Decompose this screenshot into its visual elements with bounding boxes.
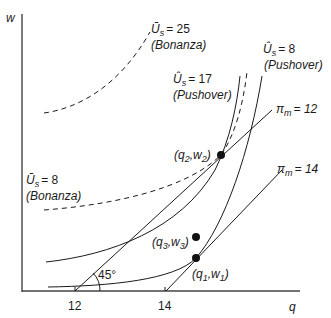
label-bonanza-25: Ūs= 25 (Bonanza) <box>151 22 206 52</box>
svg-text:Ūs= 25: Ūs= 25 <box>151 22 190 38</box>
point-q2-w2 <box>217 151 225 159</box>
profit-12-line <box>75 110 272 291</box>
label-profit-14: πm= 14 <box>277 162 319 178</box>
tick-label-12: 12 <box>68 299 82 313</box>
label-bonanza-8: Ūs= 8 (Bonanza) <box>26 173 81 203</box>
label-pushover-17: Ûs= 17 (Pushover) <box>173 71 232 102</box>
svg-text:Ūs= 8: Ūs= 8 <box>26 173 59 189</box>
angle-label: 45° <box>98 268 116 282</box>
svg-text:Ûs= 17: Ûs= 17 <box>173 71 212 88</box>
pushover-17-curve <box>46 76 240 262</box>
label-pushover-8: Ûs= 8 (Pushover) <box>263 41 323 72</box>
svg-text:(Pushover): (Pushover) <box>173 88 232 102</box>
svg-text:(Bonanza): (Bonanza) <box>151 38 206 52</box>
label-q1-w1: (q1,w1) <box>192 267 229 283</box>
svg-text:Ûs= 8: Ûs= 8 <box>263 41 296 58</box>
economics-diagram: w q 12 14 45° Ūs= 25 (Bonanza) Ûs= 8 (Pu… <box>0 0 331 318</box>
svg-text:(Bonanza): (Bonanza) <box>26 189 81 203</box>
svg-text:πm= 14: πm= 14 <box>277 162 319 178</box>
svg-text:(Pushover): (Pushover) <box>264 58 323 72</box>
pushover-8-curve <box>48 76 262 287</box>
x-axis-label: q <box>289 300 296 314</box>
point-q1-w1 <box>192 254 200 262</box>
y-axis-label: w <box>6 11 16 25</box>
label-profit-12: πm= 12 <box>276 102 318 118</box>
label-q3-w3: (q3,w3) <box>152 235 189 251</box>
bonanza-25-curve <box>44 32 150 113</box>
label-q2-w2: (q2,w2) <box>174 148 211 164</box>
point-q3-w3 <box>192 233 200 241</box>
svg-text:πm= 12: πm= 12 <box>276 102 318 118</box>
tick-label-14: 14 <box>158 299 172 313</box>
